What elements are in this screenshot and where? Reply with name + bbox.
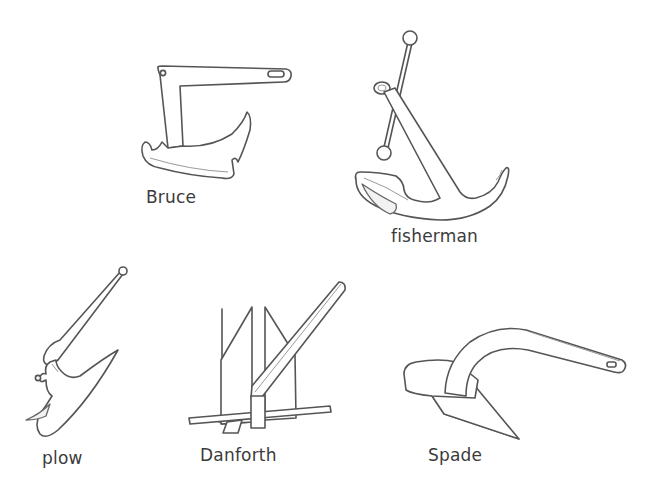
spade-anchor-icon bbox=[404, 329, 626, 440]
bruce-label: Bruce bbox=[146, 187, 196, 207]
anchor-types-diagram: Bruce fisherman plow Danforth Spade bbox=[0, 0, 646, 489]
fisherman-anchor-icon bbox=[356, 31, 509, 220]
plow-anchor-icon bbox=[26, 267, 127, 436]
fisherman-label: fisherman bbox=[391, 226, 478, 246]
anchor-drawings bbox=[0, 0, 646, 489]
danforth-label: Danforth bbox=[200, 445, 277, 465]
bruce-anchor-icon bbox=[142, 66, 291, 179]
danforth-anchor-icon bbox=[189, 282, 345, 433]
plow-label: plow bbox=[42, 448, 83, 468]
spade-label: Spade bbox=[428, 445, 482, 465]
